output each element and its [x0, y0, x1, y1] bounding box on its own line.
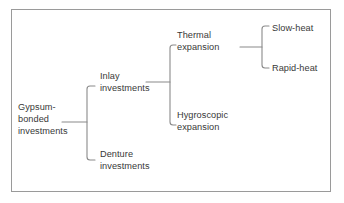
node-inlay-investments: Inlay investments: [100, 70, 172, 94]
node-rapid-heat: Rapid-heat: [272, 62, 334, 74]
node-hygroscopic-expansion: Hygroscopic expansion: [177, 109, 253, 133]
node-denture-investments: Denture investments: [100, 148, 174, 172]
edge-thermal-bracket: [262, 26, 269, 68]
node-gypsum-bonded-investments: Gypsum- bonded investments: [18, 101, 90, 138]
node-slow-heat: Slow-heat: [272, 22, 332, 34]
node-thermal-expansion: Thermal expansion: [177, 29, 247, 53]
diagram-canvas: Gypsum- bonded investments Inlay investm…: [0, 0, 344, 203]
